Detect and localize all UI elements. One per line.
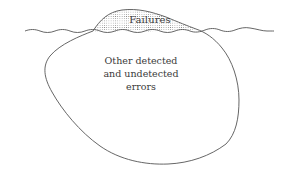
other-errors-line-3: errors [96, 80, 186, 93]
submerged-errors-body [45, 29, 239, 164]
other-errors-line-2: and undetected [96, 67, 186, 80]
other-errors-label: Other detected and undetected errors [96, 54, 186, 93]
other-errors-line-1: Other detected [96, 54, 186, 67]
failures-label: Failures [112, 14, 188, 25]
iceberg-diagram: Failures Other detected and undetected e… [0, 0, 292, 174]
